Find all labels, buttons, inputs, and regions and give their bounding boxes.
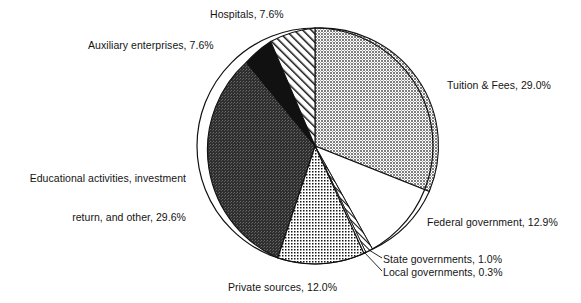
slice-label-educational-activities: Educational activities, investment retur… — [8, 146, 186, 250]
slice-label-educational-activities-line2: return, and other, 29.6% — [8, 211, 186, 224]
slice-label-local-governments: Local governments, 0.3% — [383, 266, 503, 279]
pie-chart-figure: Hospitals, 7.6% Auxiliary enterprises, 7… — [0, 0, 581, 303]
leader-line-local-governments — [364, 252, 382, 271]
slice-label-hospitals: Hospitals, 7.6% — [210, 8, 284, 21]
slice-label-tuition-fees: Tuition & Fees, 29.0% — [447, 79, 551, 92]
slice-label-state-governments: State governments, 1.0% — [383, 253, 502, 266]
slice-label-auxiliary-enterprises: Auxiliary enterprises, 7.6% — [88, 39, 214, 52]
slice-label-educational-activities-line1: Educational activities, investment — [8, 172, 186, 185]
slice-label-federal-government: Federal government, 12.9% — [427, 216, 558, 229]
leader-line-state-governments — [369, 250, 382, 258]
slice-label-private-sources: Private sources, 12.0% — [228, 281, 337, 294]
